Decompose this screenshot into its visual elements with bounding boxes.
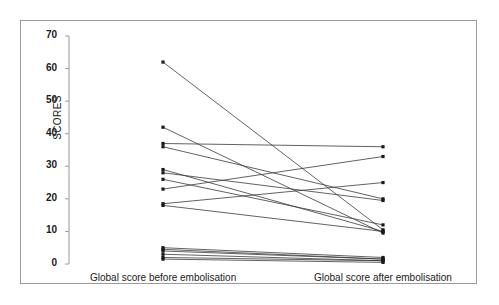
data-point-marker — [161, 142, 164, 145]
y-tick-label: 30 — [31, 159, 57, 170]
data-point-marker — [381, 145, 384, 148]
data-point-marker — [381, 155, 384, 158]
y-tick-label: 0 — [31, 257, 57, 268]
data-point-marker — [161, 178, 164, 181]
y-tick-label: 10 — [31, 224, 57, 235]
data-point-marker — [161, 168, 164, 171]
series-line — [163, 173, 383, 201]
y-tick-label: 40 — [31, 127, 57, 138]
y-axis-ticks — [65, 36, 69, 264]
figure: SCORES 010203040506070 Global score befo… — [0, 0, 499, 305]
plot-area — [0, 0, 499, 305]
series-lines — [163, 62, 383, 262]
chart-svg — [0, 0, 499, 305]
y-tick-label: 50 — [31, 94, 57, 105]
data-point-marker — [381, 223, 384, 226]
y-tick-label: 20 — [31, 192, 57, 203]
data-point-marker — [161, 187, 164, 190]
series-line — [163, 127, 383, 233]
y-tick-label: 70 — [31, 29, 57, 40]
data-point-marker — [161, 171, 164, 174]
series-line — [163, 157, 383, 190]
x-tick-label: Global score after embolisation — [314, 272, 452, 283]
data-point-marker — [381, 261, 384, 264]
data-point-marker — [161, 249, 164, 252]
series-markers — [161, 60, 384, 264]
series-line — [163, 248, 383, 258]
data-point-marker — [161, 60, 164, 63]
data-point-marker — [161, 204, 164, 207]
x-tick-label: Global score before embolisation — [90, 272, 236, 283]
data-point-marker — [381, 181, 384, 184]
y-tick-label: 60 — [31, 62, 57, 73]
data-point-marker — [161, 126, 164, 129]
data-point-marker — [161, 253, 164, 256]
data-point-marker — [381, 199, 384, 202]
data-point-marker — [381, 230, 384, 233]
data-point-marker — [161, 145, 164, 148]
data-point-marker — [161, 258, 164, 261]
